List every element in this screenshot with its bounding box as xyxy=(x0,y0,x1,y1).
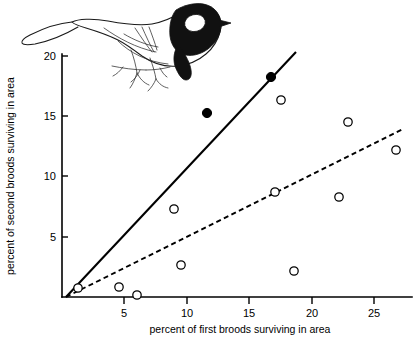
y-axis-ticks xyxy=(62,56,68,237)
y-tick-label-10: 10 xyxy=(44,170,56,182)
x-tick-label-20: 20 xyxy=(306,307,318,319)
y-tick-label-20: 20 xyxy=(44,50,56,62)
x-axis-ticks xyxy=(124,297,374,304)
data-point-open xyxy=(115,283,123,291)
x-tick-label-10: 10 xyxy=(181,307,193,319)
data-point-open xyxy=(74,284,82,292)
y-tick-label-15: 15 xyxy=(44,110,56,122)
data-point-open xyxy=(177,261,185,269)
y-tick-label-5: 5 xyxy=(50,231,56,243)
data-point-open xyxy=(133,291,141,299)
y-axis-title: percent of second broods surviving in ar… xyxy=(4,77,16,275)
figure-container: 20 15 10 5 5 10 15 20 25 percent of firs… xyxy=(0,0,419,347)
data-point-open xyxy=(344,118,352,126)
x-axis-title: percent of first broods surviving in are… xyxy=(150,323,331,335)
bird-illustration xyxy=(22,4,231,91)
data-point-filled xyxy=(266,72,275,81)
filled-circle-series xyxy=(202,72,275,117)
data-point-open xyxy=(277,96,285,104)
x-tick-label-5: 5 xyxy=(121,307,127,319)
data-point-filled xyxy=(202,108,211,117)
x-tick-label-15: 15 xyxy=(243,307,255,319)
data-point-open xyxy=(392,146,400,154)
x-tick-label-25: 25 xyxy=(368,307,380,319)
dashed-regression-line xyxy=(66,129,403,297)
scatter-plot: 20 15 10 5 5 10 15 20 25 percent of firs… xyxy=(0,0,419,347)
data-point-open xyxy=(271,188,279,196)
data-point-open xyxy=(170,205,178,213)
data-point-open xyxy=(335,193,343,201)
data-point-open xyxy=(290,267,298,275)
